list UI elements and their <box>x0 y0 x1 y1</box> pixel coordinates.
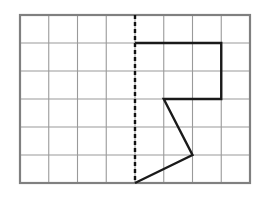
geometry-figure <box>0 0 268 205</box>
grid-canvas <box>0 0 268 205</box>
